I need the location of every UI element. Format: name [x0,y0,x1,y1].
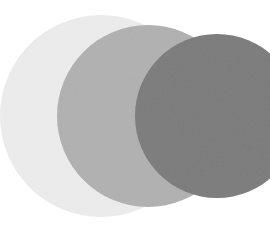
image-canvas [0,0,270,229]
overlapping-circles-graphic [0,0,270,229]
